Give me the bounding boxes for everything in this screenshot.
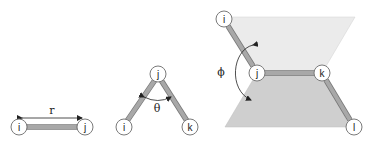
atom-k: k — [314, 65, 330, 81]
svg-text:j: j — [83, 122, 86, 133]
dihedral-panel: ϕ i j k l — [216, 11, 362, 135]
svg-text:j: j — [255, 68, 258, 79]
lower-plane — [225, 73, 350, 127]
dihedral-label-phi: ϕ — [217, 66, 225, 79]
svg-text:j: j — [156, 69, 159, 80]
bond-length-panel: r i j — [11, 104, 93, 136]
internal-coordinates-diagram: r i j θ j i k — [0, 0, 375, 143]
upper-plane — [226, 17, 355, 73]
bond-ij — [27, 125, 77, 130]
angle-label-theta: θ — [154, 102, 161, 115]
distance-label-r: r — [49, 104, 55, 117]
angle-arc — [144, 97, 171, 101]
bond-angle-panel: θ j i k — [116, 66, 198, 135]
atom-k: k — [182, 119, 198, 135]
atom-j: j — [249, 65, 265, 81]
atom-i: i — [216, 11, 232, 27]
svg-text:i: i — [18, 122, 20, 133]
atom-i: i — [116, 119, 132, 135]
svg-text:i: i — [123, 122, 125, 133]
svg-text:i: i — [223, 14, 225, 25]
atom-j: j — [77, 119, 93, 135]
atom-j: j — [150, 66, 166, 82]
svg-text:l: l — [353, 122, 355, 133]
atom-l: l — [346, 119, 362, 135]
atom-i: i — [11, 119, 27, 135]
